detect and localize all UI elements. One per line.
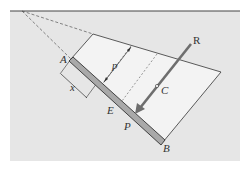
label-B: B (163, 142, 170, 154)
label-p: p (111, 59, 118, 71)
label-P: P (123, 120, 131, 132)
label-x: x (69, 81, 75, 93)
label-C: C (161, 84, 169, 96)
plate-diagram: A B C E P R p x (0, 0, 247, 175)
label-A: A (59, 53, 67, 65)
label-E: E (106, 104, 114, 116)
label-R: R (193, 34, 201, 46)
diagram-frame: A B C E P R p x (0, 0, 247, 175)
centroid-marker (155, 84, 158, 87)
